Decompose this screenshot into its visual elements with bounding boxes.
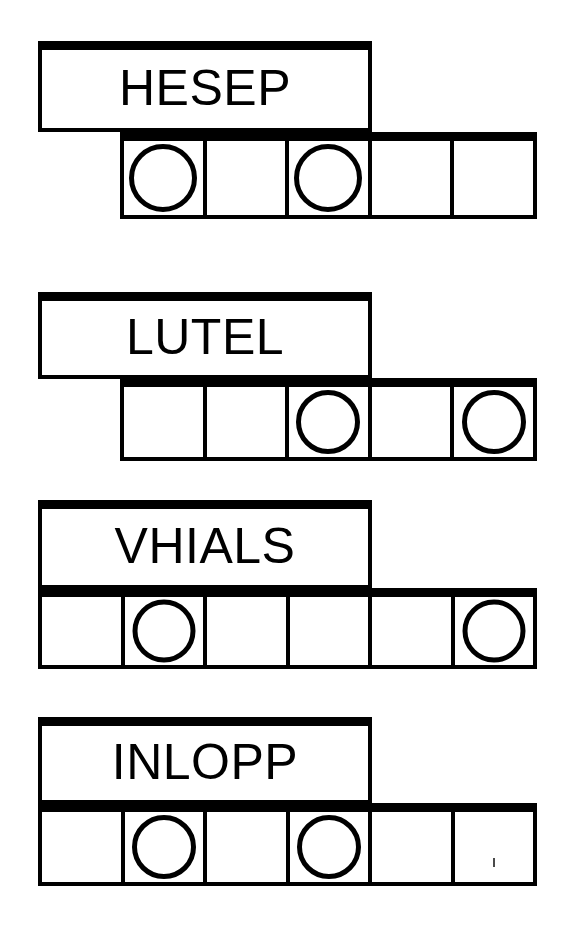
answer-grid-row — [120, 132, 537, 219]
answer-cell[interactable] — [125, 812, 208, 882]
word-label-box: LUTEL — [38, 292, 372, 379]
circle-marker-icon — [132, 815, 196, 879]
word-label-text: VHIALS — [115, 521, 296, 573]
answer-cell[interactable] — [372, 387, 455, 457]
answer-cell[interactable] — [454, 387, 533, 457]
answer-grid-row — [38, 588, 537, 669]
answer-cell[interactable] — [124, 141, 207, 215]
answer-cell[interactable] — [372, 812, 455, 882]
circle-marker-icon — [296, 390, 360, 454]
puzzle-canvas: HESEPLUTELVHIALSINLOPP — [0, 0, 586, 925]
circle-marker-icon — [129, 144, 197, 212]
word-label-text: LUTEL — [126, 312, 284, 364]
circle-marker-icon — [462, 390, 526, 454]
answer-grid-row — [120, 378, 537, 461]
answer-cell[interactable] — [372, 597, 455, 665]
word-label-text: HESEP — [119, 63, 291, 115]
answer-cell[interactable] — [42, 597, 125, 665]
answer-cell[interactable] — [372, 141, 455, 215]
word-label-box: HESEP — [38, 41, 372, 132]
word-label-box: INLOPP — [38, 717, 372, 804]
answer-cell[interactable] — [290, 812, 373, 882]
ink-speck-mark — [493, 858, 495, 867]
answer-grid-row — [38, 803, 537, 886]
answer-cell[interactable] — [207, 141, 290, 215]
answer-cell[interactable] — [455, 597, 534, 665]
answer-cell[interactable] — [290, 597, 373, 665]
answer-cell[interactable] — [124, 387, 207, 457]
circle-marker-icon — [462, 600, 525, 663]
answer-cell[interactable] — [455, 812, 534, 882]
circle-marker-icon — [132, 600, 195, 663]
answer-cell[interactable] — [125, 597, 208, 665]
answer-cell[interactable] — [289, 141, 372, 215]
word-label-text: INLOPP — [112, 737, 298, 789]
circle-marker-icon — [294, 144, 362, 212]
answer-cell[interactable] — [207, 387, 290, 457]
answer-cell[interactable] — [207, 597, 290, 665]
circle-marker-icon — [297, 815, 361, 879]
word-label-box: VHIALS — [38, 500, 372, 589]
answer-cell[interactable] — [289, 387, 372, 457]
answer-cell[interactable] — [42, 812, 125, 882]
answer-cell[interactable] — [454, 141, 533, 215]
answer-cell[interactable] — [207, 812, 290, 882]
